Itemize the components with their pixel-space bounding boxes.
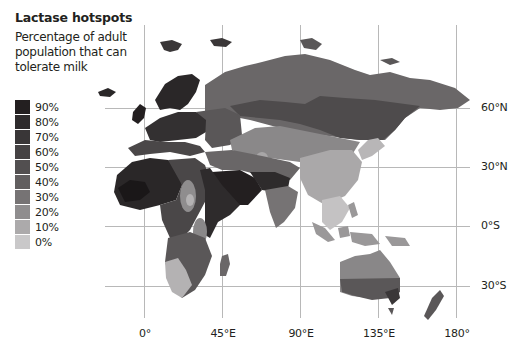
region-tasmania (388, 308, 394, 315)
lon-label-135e: 135°E (363, 327, 395, 340)
choropleth-map (0, 0, 519, 353)
lon-label-0: 0° (139, 327, 151, 340)
region-india (265, 186, 298, 228)
lon-label-180: 180° (444, 327, 469, 340)
lon-label-45e: 45°E (210, 327, 235, 340)
region-central-europe (145, 112, 206, 142)
region-southern-europe (128, 140, 205, 156)
region-scandinavia (155, 74, 200, 110)
region-new-zealand (424, 290, 444, 320)
lat-label-0: 0°S (481, 219, 500, 232)
region-korea-japan (358, 138, 385, 160)
light-zone-sudan-core (186, 194, 194, 206)
region-uk (132, 104, 146, 124)
lat-label-30s: 30°S (481, 279, 506, 292)
lon-label-90e: 90°E (288, 327, 313, 340)
region-southeast-asia (322, 196, 350, 230)
region-madagascar (220, 254, 230, 276)
lat-label-60n: 60°N (481, 101, 508, 114)
lat-label-30n: 30°N (481, 160, 508, 173)
region-china (300, 150, 362, 205)
